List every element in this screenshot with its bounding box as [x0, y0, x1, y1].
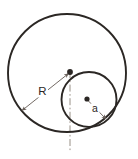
- radius-r-label: R: [38, 85, 46, 97]
- geometric-diagram-canvas: R a: [0, 0, 138, 159]
- small-circle-center-dot: [84, 96, 89, 101]
- diagram-svg-root: R a: [0, 0, 138, 159]
- large-circle-center-dot: [67, 69, 73, 75]
- radius-a-label: a: [92, 102, 98, 114]
